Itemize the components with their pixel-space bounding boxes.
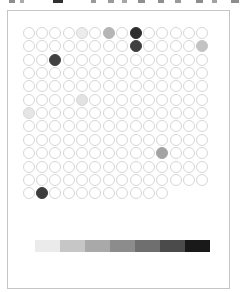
- grid-dot: [183, 147, 195, 159]
- grid-dot: [103, 94, 115, 106]
- grid-dot: [196, 54, 208, 66]
- grid-dot-filled: [130, 40, 142, 52]
- grid-dot: [89, 161, 101, 173]
- grid-dot: [23, 147, 35, 159]
- grid-dot: [130, 94, 142, 106]
- grid-dot: [63, 27, 75, 39]
- grid-dot: [36, 27, 48, 39]
- grid-dot: [23, 161, 35, 173]
- grid-dot: [143, 147, 155, 159]
- grid-dot: [183, 94, 195, 106]
- clipped-text-fragment: [231, 0, 239, 3]
- grid-dot: [23, 134, 35, 146]
- grid-dot: [143, 107, 155, 119]
- grid-dot: [103, 107, 115, 119]
- grid-dot: [183, 107, 195, 119]
- grid-dot: [170, 67, 182, 79]
- grid-dot: [196, 134, 208, 146]
- legend-colorbar: [35, 240, 210, 252]
- grid-dot: [196, 174, 208, 186]
- grid-dot: [170, 27, 182, 39]
- grid-dot: [143, 187, 155, 199]
- grid-dot: [63, 67, 75, 79]
- clipped-text-fragment: [9, 0, 15, 3]
- clipped-text-fragment: [158, 0, 164, 3]
- grid-dot: [36, 94, 48, 106]
- grid-dot: [76, 174, 88, 186]
- grid-dot: [116, 94, 128, 106]
- legend-color-step: [185, 240, 210, 252]
- grid-dot: [183, 174, 195, 186]
- grid-dot: [170, 54, 182, 66]
- clipped-text-fragment: [91, 0, 96, 3]
- grid-dot: [143, 67, 155, 79]
- grid-dot: [130, 107, 142, 119]
- grid-dot: [23, 40, 35, 52]
- grid-dot: [183, 161, 195, 173]
- grid-dot: [36, 54, 48, 66]
- grid-dot: [170, 94, 182, 106]
- grid-dot: [103, 54, 115, 66]
- grid-dot: [143, 54, 155, 66]
- grid-dot: [103, 147, 115, 159]
- grid-dot: [183, 134, 195, 146]
- clipped-text-fragment: [122, 0, 127, 3]
- grid-dot: [196, 94, 208, 106]
- legend-color-step: [135, 240, 160, 252]
- grid-dot: [63, 174, 75, 186]
- grid-dot: [103, 187, 115, 199]
- grid-dot: [76, 54, 88, 66]
- grid-dot: [23, 80, 35, 92]
- grid-dot: [76, 161, 88, 173]
- clipped-text-fragment: [20, 0, 24, 3]
- grid-dot: [130, 174, 142, 186]
- grid-dot: [156, 134, 168, 146]
- grid-dot: [130, 161, 142, 173]
- grid-dot: [63, 94, 75, 106]
- grid-dot: [170, 120, 182, 132]
- clipped-text-fragment: [196, 0, 203, 3]
- grid-dot: [23, 54, 35, 66]
- grid-dot: [23, 67, 35, 79]
- grid-dot-filled: [49, 54, 61, 66]
- grid-dot: [36, 134, 48, 146]
- grid-dot: [76, 134, 88, 146]
- clipped-text-fragment: [175, 0, 181, 3]
- grid-dot: [143, 27, 155, 39]
- clipped-text-fragment: [212, 0, 217, 3]
- grid-dot: [170, 107, 182, 119]
- grid-dot: [183, 67, 195, 79]
- grid-dot: [130, 80, 142, 92]
- grid-dot-filled: [23, 107, 35, 119]
- grid-dot: [63, 54, 75, 66]
- grid-dot: [23, 187, 35, 199]
- grid-dot: [116, 161, 128, 173]
- grid-dot: [143, 94, 155, 106]
- grid-dot: [36, 174, 48, 186]
- grid-dot: [170, 134, 182, 146]
- grid-dot: [130, 54, 142, 66]
- grid-dot-filled: [76, 94, 88, 106]
- grid-dot: [49, 161, 61, 173]
- grid-dot: [103, 174, 115, 186]
- grid-dot-filled: [130, 27, 142, 39]
- grid-dot: [156, 94, 168, 106]
- legend-color-step: [60, 240, 85, 252]
- grid-dot: [63, 147, 75, 159]
- grid-dot: [183, 54, 195, 66]
- clipped-text-fragment: [53, 0, 63, 3]
- grid-dot: [170, 80, 182, 92]
- grid-dot: [156, 174, 168, 186]
- legend-color-step: [85, 240, 110, 252]
- grid-dot: [103, 134, 115, 146]
- grid-dot: [63, 187, 75, 199]
- grid-dot: [36, 67, 48, 79]
- grid-dot: [183, 27, 195, 39]
- grid-dot: [156, 161, 168, 173]
- grid-dot: [116, 54, 128, 66]
- grid-dot: [156, 54, 168, 66]
- grid-dot: [63, 134, 75, 146]
- grid-dot: [143, 161, 155, 173]
- grid-dot: [36, 161, 48, 173]
- grid-dot: [63, 161, 75, 173]
